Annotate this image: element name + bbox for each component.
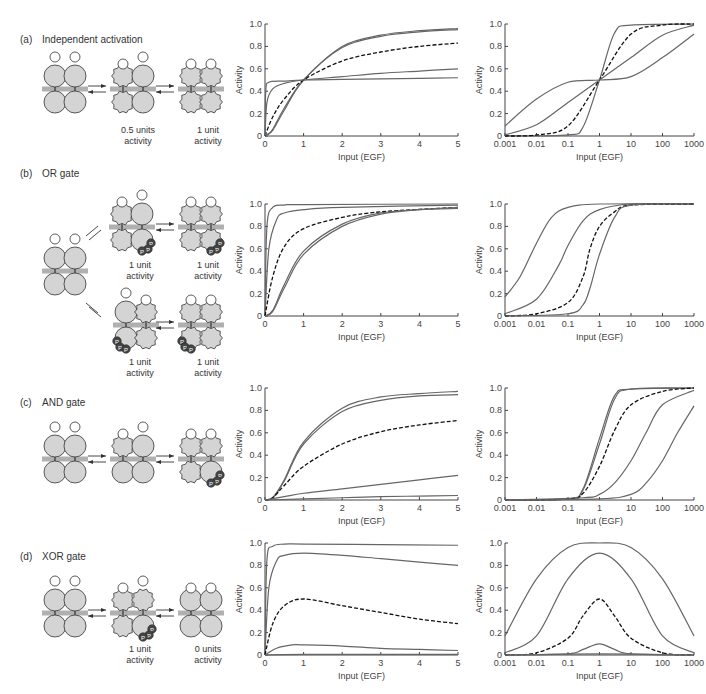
equilibrium-arrows-icon xyxy=(88,454,106,464)
state-caption: 1 unitactivity xyxy=(110,644,170,666)
egf-ligand-icon xyxy=(121,288,131,298)
x-tick-label: 0.1 xyxy=(562,503,575,513)
egf-ligand-icon xyxy=(70,52,80,62)
x-tick-label: 1 xyxy=(301,319,306,329)
y-tick-label: 0 xyxy=(257,311,262,321)
active-domain xyxy=(132,589,155,611)
membrane xyxy=(110,457,156,462)
chart-a-log: 00.20.40.60.81.00.0010.010.11101001000Ac… xyxy=(470,14,706,164)
receptor-dimer: PPP xyxy=(109,190,155,255)
x-axis-label: Input (EGF) xyxy=(338,516,385,526)
receptor-dimer xyxy=(110,52,156,113)
active-domain xyxy=(112,615,135,637)
x-tick-label: 2 xyxy=(340,319,345,329)
x-tick-label: 100 xyxy=(655,658,670,668)
y-tick-label: 0.4 xyxy=(249,450,262,460)
state-caption: 1 unitactivity xyxy=(110,260,170,282)
inactive-domain xyxy=(44,615,66,637)
curve-steep-1 xyxy=(265,28,458,136)
egf-ligand-icon xyxy=(186,583,196,593)
y-tick-label: 0 xyxy=(257,650,262,660)
figure-caption-cutoff xyxy=(0,684,706,694)
curve-flat xyxy=(265,654,458,655)
egf-ligand-icon xyxy=(206,429,216,439)
x-tick-label: 0.001 xyxy=(494,139,517,149)
receptor-dimer xyxy=(178,583,224,637)
chart-b-linear: 00.20.40.60.81.0012345ActivityInput (EGF… xyxy=(230,194,470,344)
x-tick-label: 0.001 xyxy=(494,503,517,513)
x-tick-label: 2 xyxy=(340,139,345,149)
y-tick-label: 1.0 xyxy=(249,538,262,548)
equilibrium-arrows-icon xyxy=(156,222,174,232)
y-axis-label: Activity xyxy=(234,65,244,94)
egf-ligand-icon xyxy=(206,583,216,593)
x-tick-label: 10 xyxy=(626,503,636,513)
x-tick-label: 0 xyxy=(262,658,267,668)
x-tick-label: 1 xyxy=(597,658,602,668)
svg-text:P: P xyxy=(124,347,128,353)
y-tick-label: 1.0 xyxy=(249,19,262,29)
egf-ligand-icon xyxy=(138,422,148,432)
y-tick-label: 0.4 xyxy=(489,450,502,460)
y-tick-label: 1.0 xyxy=(249,199,262,209)
receptor-dimer xyxy=(42,234,88,295)
inactive-domain xyxy=(44,589,66,611)
chart-d-linear: 00.20.40.60.81.0012345ActivityInput (EGF… xyxy=(230,533,470,683)
receptor-diagrams: PPPPPPPPPPPPPPPPPP xyxy=(0,0,240,694)
membrane xyxy=(42,457,88,462)
y-tick-label: 1.0 xyxy=(489,538,502,548)
curve-hyperbolic xyxy=(265,43,458,136)
equilibrium-arrows-icon xyxy=(156,608,174,618)
curve-hyperbolic xyxy=(505,204,694,316)
svg-text:P: P xyxy=(209,481,213,487)
y-tick-label: 0.4 xyxy=(489,266,502,276)
inactive-domain xyxy=(44,435,66,457)
y-tick-label: 0.4 xyxy=(249,266,262,276)
curve-top-2 xyxy=(265,395,458,500)
y-tick-label: 0.4 xyxy=(489,605,502,615)
equilibrium-arrows-icon xyxy=(88,84,106,94)
y-tick-label: 0.6 xyxy=(249,583,262,593)
y-tick-label: 0.8 xyxy=(249,41,262,51)
egf-ligand-icon xyxy=(186,429,196,439)
x-tick-label: 1 xyxy=(597,319,602,329)
receptor-dimer xyxy=(42,576,88,637)
y-tick-label: 0.6 xyxy=(489,428,502,438)
egf-ligand-icon xyxy=(70,234,80,244)
receptor-dimer: PPP xyxy=(178,197,224,255)
svg-text:P: P xyxy=(140,249,144,255)
curve-flat xyxy=(265,496,458,500)
y-tick-label: 1.0 xyxy=(489,199,502,209)
y-tick-label: 0.8 xyxy=(489,221,502,231)
curve-top-1 xyxy=(265,391,458,500)
state-caption: 1 unitactivity xyxy=(178,357,238,379)
curve-shallow xyxy=(505,34,694,126)
egf-ligand-icon xyxy=(118,583,128,593)
active-domain xyxy=(112,91,135,113)
x-axis-label: Input (EGF) xyxy=(576,516,623,526)
x-tick-label: 5 xyxy=(455,319,460,329)
inactive-domain xyxy=(64,247,86,269)
inactive-domain xyxy=(180,615,202,637)
egf-ligand-icon xyxy=(70,422,80,432)
curve-second xyxy=(265,553,458,655)
y-tick-label: 0.6 xyxy=(249,64,262,74)
y-axis-label: Activity xyxy=(474,584,484,613)
svg-text:P: P xyxy=(118,345,122,351)
receptor-dimer: PPP xyxy=(113,288,159,353)
y-axis-label: Activity xyxy=(474,245,484,274)
membrane xyxy=(178,611,224,616)
x-tick-label: 100 xyxy=(655,503,670,513)
membrane xyxy=(42,87,88,92)
receptor-dimer xyxy=(42,422,88,483)
egf-ligand-icon xyxy=(206,197,216,207)
inactive-domain xyxy=(44,273,66,295)
egf-ligand-icon xyxy=(206,295,216,305)
x-tick-label: 5 xyxy=(455,503,460,513)
svg-text:P: P xyxy=(141,635,145,641)
y-tick-label: 0.6 xyxy=(489,64,502,74)
inactive-domain xyxy=(44,461,66,483)
membrane xyxy=(42,269,88,274)
x-tick-label: 3 xyxy=(378,503,383,513)
x-tick-label: 4 xyxy=(417,503,422,513)
